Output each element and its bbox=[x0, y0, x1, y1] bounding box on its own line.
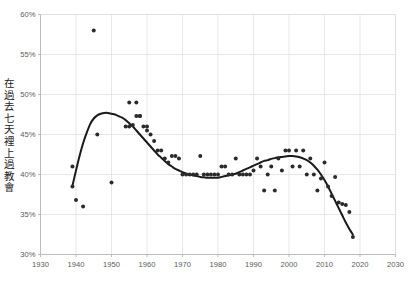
svg-text:2000: 2000 bbox=[281, 260, 298, 269]
svg-text:1990: 1990 bbox=[245, 260, 262, 269]
svg-text:35%: 35% bbox=[20, 210, 35, 219]
svg-text:50%: 50% bbox=[20, 90, 35, 99]
svg-text:40%: 40% bbox=[20, 170, 35, 179]
y-axis-tick-labels: 30%35%40%45%50%55%60% bbox=[20, 10, 40, 259]
svg-text:1950: 1950 bbox=[103, 260, 120, 269]
svg-text:55%: 55% bbox=[20, 50, 35, 59]
svg-text:1940: 1940 bbox=[68, 260, 85, 269]
data-points bbox=[70, 29, 354, 239]
svg-text:60%: 60% bbox=[20, 10, 35, 19]
svg-text:1930: 1930 bbox=[32, 260, 49, 269]
svg-text:1970: 1970 bbox=[174, 260, 191, 269]
svg-text:30%: 30% bbox=[20, 250, 35, 259]
svg-text:2030: 2030 bbox=[387, 260, 404, 269]
scatter-chart: 1930194019501960197019801990200020102020… bbox=[0, 0, 414, 282]
svg-text:2010: 2010 bbox=[316, 260, 333, 269]
svg-text:1980: 1980 bbox=[210, 260, 227, 269]
x-axis-tick-labels: 1930194019501960197019801990200020102020… bbox=[32, 255, 404, 270]
svg-text:1960: 1960 bbox=[139, 260, 156, 269]
svg-text:45%: 45% bbox=[20, 130, 35, 139]
grid-lines bbox=[41, 15, 396, 255]
svg-text:2020: 2020 bbox=[352, 260, 369, 269]
chart-container: 在過去七天裡上過教會 19301940195019601970198019902… bbox=[0, 0, 414, 282]
